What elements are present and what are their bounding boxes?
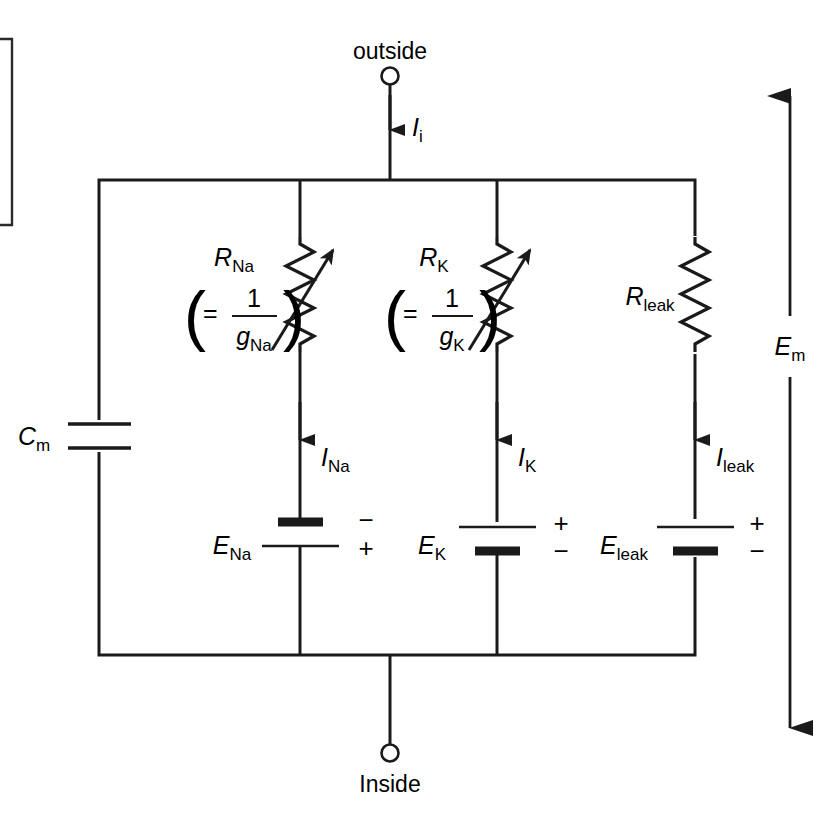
membrane-potential-label: Em — [775, 332, 806, 365]
sodium-relation-numerator: 1 — [247, 284, 261, 312]
leak-battery-label: Eleak — [600, 531, 648, 564]
potassium-relation-close-paren: ) — [479, 278, 501, 352]
sodium-branch: RNa ( = 1 gNa ) INa ENa − + — [184, 180, 374, 655]
potassium-conductance-relation: ( = 1 gK ) — [384, 278, 501, 355]
input-current-label: Ii — [412, 113, 423, 146]
inside-terminal-label: Inside — [359, 771, 420, 797]
outside-terminal-label: outside — [353, 38, 427, 64]
potassium-battery-label: EK — [418, 531, 447, 564]
circuit-diagram-canvas: outside Ii Inside Cm RNa ( = 1 gN — [0, 0, 834, 814]
circuit-schematic: outside Ii Inside Cm RNa ( = 1 gN — [0, 0, 834, 814]
leak-battery-bottom-sign: − — [749, 536, 764, 566]
sodium-battery-top-sign: − — [358, 505, 373, 535]
sodium-battery-label: ENa — [213, 531, 252, 564]
membrane-potential-indicator: Em — [775, 96, 806, 728]
sodium-resistor-label: RNa — [214, 243, 254, 276]
capacitor-label: Cm — [18, 422, 50, 455]
leak-resistor-label: Rleak — [625, 282, 675, 315]
potassium-battery-bottom-sign: − — [553, 536, 568, 566]
scan-border-artifact — [0, 39, 12, 225]
inside-terminal-group: Inside — [359, 655, 420, 797]
sodium-relation-close-paren: ) — [283, 278, 305, 352]
potassium-battery-top-sign: + — [553, 508, 568, 538]
leak-battery-top-sign: + — [749, 508, 764, 538]
potassium-current-label: IK — [518, 443, 537, 476]
sodium-conductance-relation: ( = 1 gNa ) — [184, 278, 305, 355]
potassium-relation-denominator: gK — [439, 322, 465, 355]
leak-current-label: Ileak — [716, 443, 755, 476]
leak-branch: Rleak Ileak Eleak + − — [600, 236, 765, 566]
outside-terminal-group: outside Ii — [353, 38, 427, 180]
sodium-current-label: INa — [321, 443, 350, 476]
sodium-relation-equals: = — [203, 299, 218, 327]
membrane-capacitor-branch: Cm — [18, 420, 131, 455]
potassium-relation-equals: = — [403, 299, 418, 327]
potassium-relation-numerator: 1 — [445, 284, 459, 312]
potassium-branch: RK ( = 1 gK ) IK EK + − — [384, 180, 569, 655]
sodium-battery-bottom-sign: + — [358, 533, 373, 563]
potassium-resistor-label: RK — [419, 243, 449, 276]
circuit-outer-loop — [99, 180, 695, 655]
inside-terminal-open-circle-icon — [382, 745, 399, 762]
outside-terminal-open-circle-icon — [382, 68, 399, 85]
sodium-relation-denominator: gNa — [236, 322, 272, 355]
